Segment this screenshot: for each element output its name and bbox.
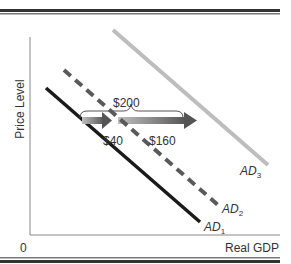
x-axis-label: Real GDP: [225, 241, 279, 255]
top-rule: [0, 9, 280, 15]
ad2-curve: [64, 70, 218, 205]
chart-canvas: $200 $40 $160 AD1 AD2 AD3 Price Level 0 …: [0, 0, 291, 264]
large-shift-label: $160: [149, 134, 176, 148]
origin-label: 0: [20, 241, 27, 255]
small-shift-label: $40: [103, 134, 123, 148]
large-shift-arrow: [118, 112, 197, 129]
y-axis-label: Price Level: [13, 79, 27, 138]
total-shift-label: $200: [113, 96, 140, 110]
ad2-label: AD2: [221, 202, 244, 218]
ad1-label: AD1: [203, 220, 226, 236]
ad3-label: AD3: [239, 164, 262, 180]
bottom-rule: [0, 257, 280, 263]
small-shift-arrow: [82, 112, 112, 129]
